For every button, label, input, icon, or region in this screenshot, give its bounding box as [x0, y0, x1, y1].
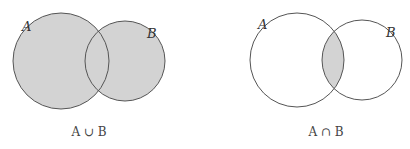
venn-diagrams: A B A ∪ B A B A ∩ B	[0, 0, 410, 149]
set-a-label: A	[21, 19, 31, 34]
intersection-diagram: A B A ∩ B	[250, 13, 402, 139]
union-caption: A ∪ B	[70, 125, 106, 139]
set-a-label: A	[257, 17, 267, 32]
set-b-label: B	[146, 26, 157, 41]
union-diagram: A B A ∪ B	[13, 13, 165, 139]
intersection-caption: A ∩ B	[307, 125, 343, 139]
set-b-label: B	[385, 25, 396, 40]
